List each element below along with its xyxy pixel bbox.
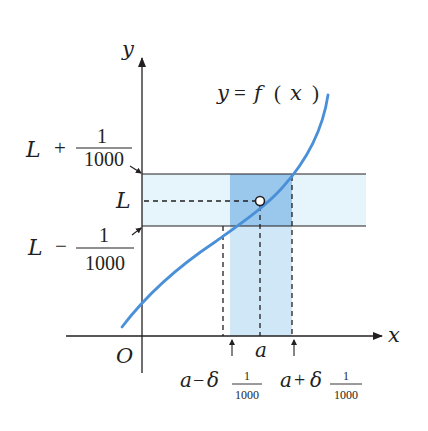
- svg-text:−: −: [193, 369, 204, 391]
- svg-text:a: a: [280, 368, 292, 392]
- svg-text:1: 1: [97, 125, 107, 147]
- svg-text:−: −: [55, 234, 67, 258]
- a-label: a: [255, 338, 267, 362]
- upper-bound-arrow-icon: [130, 166, 141, 173]
- upper-bound-label: L + 1 1000: [25, 125, 132, 170]
- lower-bound-label: L − 1 1000: [27, 224, 134, 274]
- svg-text:+: +: [294, 369, 305, 391]
- svg-text:δ: δ: [310, 368, 322, 392]
- right-delta-label: a + δ 1 1000: [280, 368, 362, 402]
- svg-text:=: =: [234, 81, 246, 105]
- left-delta-label: a − δ 1 1000: [180, 368, 262, 402]
- hole-point: [256, 197, 265, 206]
- svg-text:1000: 1000: [235, 388, 259, 402]
- curve-label: y = f ( x ): [216, 81, 319, 105]
- svg-text:x: x: [290, 81, 302, 105]
- svg-text:1000: 1000: [85, 252, 125, 274]
- svg-text:L: L: [25, 137, 41, 162]
- svg-text:): ): [312, 81, 319, 105]
- l-label: L: [115, 188, 131, 213]
- svg-text:1: 1: [343, 369, 349, 383]
- svg-text:δ: δ: [207, 368, 219, 392]
- svg-text:a: a: [180, 368, 192, 392]
- lower-bound-arrow-icon: [132, 228, 141, 235]
- svg-text:(: (: [274, 81, 281, 105]
- svg-text:1000: 1000: [334, 388, 358, 402]
- svg-text:L: L: [27, 235, 43, 260]
- x-axis-label: x: [388, 323, 400, 347]
- svg-text:y: y: [216, 81, 230, 105]
- svg-text:1: 1: [244, 369, 250, 383]
- svg-text:1000: 1000: [84, 148, 124, 170]
- y-axis-label: y: [121, 37, 135, 61]
- svg-text:1: 1: [99, 224, 109, 246]
- limit-diagram: y x O y = f ( x ) L + 1 1000 L L − 1 100…: [0, 0, 428, 431]
- svg-text:+: +: [54, 136, 66, 160]
- svg-text:f: f: [252, 81, 265, 105]
- origin-label: O: [116, 344, 133, 368]
